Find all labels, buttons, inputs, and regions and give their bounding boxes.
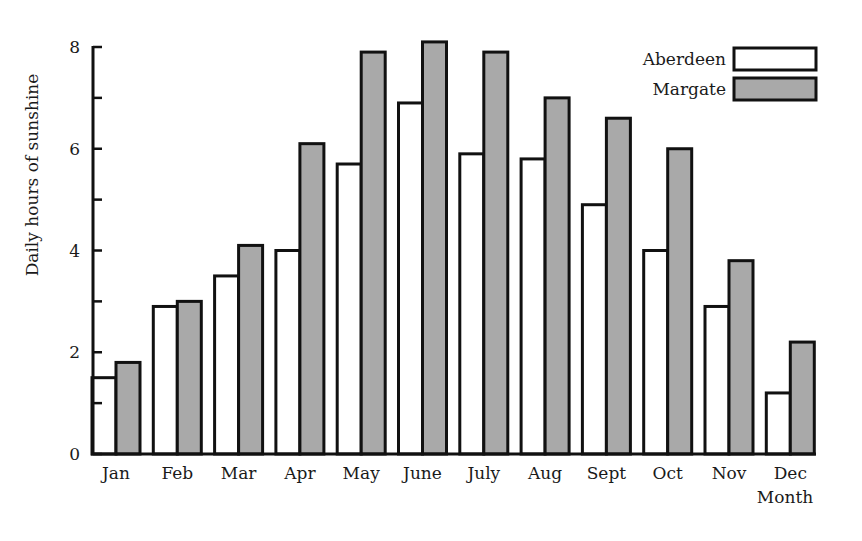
bar-group-sept — [582, 118, 630, 454]
x-tick-label: Feb — [161, 463, 193, 483]
x-tick-label: Oct — [653, 463, 683, 483]
legend-label-margate: Margate — [652, 79, 726, 99]
bar-group-apr — [276, 144, 324, 454]
bar-margate-sept — [606, 118, 630, 454]
bar-aberdeen-may — [337, 164, 361, 454]
x-axis: JanFebMarAprMayJuneJulyAugSeptOctNovDec — [91, 454, 816, 483]
bar-group-jan — [92, 362, 140, 454]
bar-group-aug — [521, 98, 569, 454]
bar-margate-june — [423, 42, 447, 454]
bar-margate-may — [361, 52, 385, 454]
bar-margate-aug — [545, 98, 569, 454]
bar-group-dec — [766, 342, 814, 454]
y-tick-label: 0 — [69, 444, 80, 464]
bar-group-oct — [644, 149, 692, 454]
legend-label-aberdeen: Aberdeen — [642, 49, 726, 69]
bar-aberdeen-mar — [215, 276, 239, 454]
bar-aberdeen-dec — [766, 393, 790, 454]
bar-group-feb — [153, 301, 201, 454]
x-tick-label: July — [465, 463, 500, 483]
bar-margate-dec — [790, 342, 814, 454]
legend-swatch-margate — [734, 78, 816, 100]
x-tick-label: Apr — [283, 463, 316, 483]
x-tick-label: Dec — [774, 463, 807, 483]
bar-margate-oct — [668, 149, 692, 454]
x-tick-label: Mar — [221, 463, 258, 483]
bar-aberdeen-nov — [705, 306, 729, 454]
bar-group-july — [460, 52, 508, 454]
bar-aberdeen-july — [460, 154, 484, 454]
bar-margate-apr — [300, 144, 324, 454]
bar-margate-jan — [116, 362, 140, 454]
y-tick-label: 8 — [69, 37, 80, 57]
bar-group-june — [399, 42, 447, 454]
bar-margate-feb — [177, 301, 201, 454]
x-axis-title: Month — [757, 487, 813, 507]
bar-aberdeen-feb — [153, 306, 177, 454]
bar-group-nov — [705, 261, 753, 454]
y-tick-label: 2 — [69, 342, 80, 362]
y-axis-title: Daily hours of sunshine — [22, 74, 42, 277]
y-tick-label: 4 — [69, 241, 80, 261]
bar-groups — [92, 42, 814, 454]
legend-swatch-aberdeen — [734, 48, 816, 70]
x-tick-label: Sept — [587, 463, 627, 483]
sunshine-bar-chart: 02468 JanFebMarAprMayJuneJulyAugSeptOctN… — [0, 0, 862, 541]
bar-aberdeen-jan — [92, 378, 116, 454]
legend: AberdeenMargate — [642, 48, 816, 100]
bar-aberdeen-aug — [521, 159, 545, 454]
bar-group-mar — [215, 245, 263, 454]
bar-group-may — [337, 52, 385, 454]
bar-aberdeen-sept — [582, 205, 606, 454]
x-tick-label: Nov — [712, 463, 747, 483]
x-tick-label: Jan — [100, 463, 130, 483]
bar-aberdeen-june — [399, 103, 423, 454]
bar-margate-july — [484, 52, 508, 454]
bar-aberdeen-oct — [644, 251, 668, 455]
y-tick-label: 6 — [69, 139, 80, 159]
x-tick-label: June — [401, 463, 442, 483]
x-tick-label: May — [343, 463, 381, 483]
bar-margate-nov — [729, 261, 753, 454]
bar-aberdeen-apr — [276, 251, 300, 455]
x-tick-label: Aug — [527, 463, 562, 483]
bar-margate-mar — [239, 245, 263, 454]
